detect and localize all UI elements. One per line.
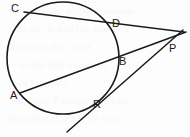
geometry-canvas <box>0 0 190 137</box>
point-label-p: P <box>169 43 176 54</box>
point-label-d: D <box>112 18 120 29</box>
point-label-b: B <box>119 56 126 67</box>
secant-line-cp <box>24 12 184 32</box>
point-label-r: R <box>93 99 101 110</box>
secant-line-ap <box>20 32 186 93</box>
circle-shape <box>7 2 119 114</box>
point-label-a: A <box>10 90 17 101</box>
tangent-line-rp <box>67 30 183 132</box>
geometry-figure: vertex of the angle is outside the circl… <box>0 0 190 137</box>
point-label-c: C <box>11 3 19 14</box>
